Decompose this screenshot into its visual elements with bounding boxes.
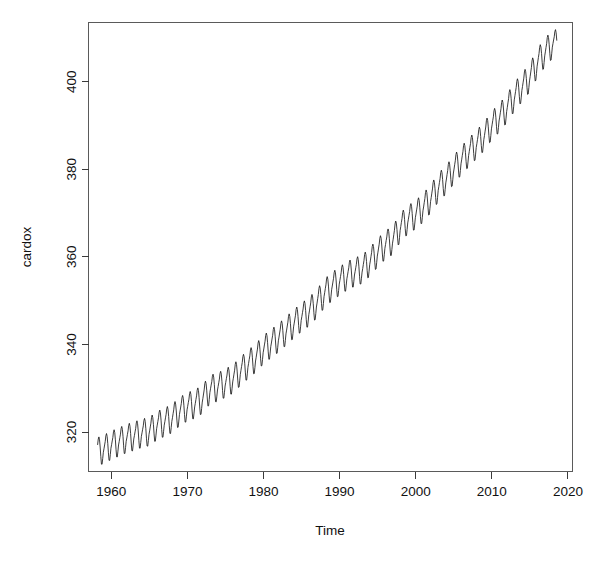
- y-axis-tick-label: 380: [64, 158, 79, 181]
- plot-figure: 320340360380400 196019701980199020002010…: [0, 0, 605, 564]
- x-axis-title: Time: [315, 523, 345, 538]
- x-axis-tick-label: 1980: [249, 484, 279, 499]
- plot-canvas: 320340360380400 196019701980199020002010…: [0, 0, 605, 564]
- x-axis-tick-label: 1960: [96, 484, 126, 499]
- y-axis-tick-label: 360: [64, 246, 79, 269]
- x-axis-tick-label: 1970: [172, 484, 202, 499]
- y-axis-tick-label: 340: [64, 333, 79, 356]
- y-axis-title: cardox: [19, 226, 34, 267]
- x-axis-tick-label: 2010: [477, 484, 507, 499]
- x-axis-tick-label: 1990: [325, 484, 355, 499]
- y-axis-tick-label: 320: [64, 421, 79, 444]
- y-axis-tick-label: 400: [64, 70, 79, 93]
- figure-background: [0, 0, 605, 564]
- x-axis-tick-label: 2020: [553, 484, 583, 499]
- x-axis-tick-label: 2000: [401, 484, 431, 499]
